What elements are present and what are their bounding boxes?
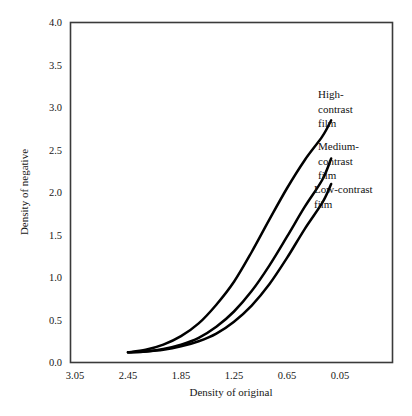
y-tick-label: 0.5 — [49, 315, 62, 326]
y-tick-label: 0.0 — [49, 357, 62, 368]
y-tick-label: 4.0 — [49, 17, 62, 28]
x-tick-label: 2.45 — [119, 370, 137, 381]
y-tick-label: 2.0 — [49, 187, 62, 198]
y-tick-label: 1.0 — [49, 272, 62, 283]
chart-canvas: 0.00.51.01.52.02.53.03.54.0 3.052.451.85… — [0, 0, 412, 416]
y-axis-tick-labels: 0.00.51.01.52.02.53.03.54.0 — [49, 17, 62, 368]
y-tick-label: 1.5 — [49, 230, 62, 241]
series-label-low-contrast-film: film — [314, 198, 333, 210]
y-tick-label: 3.5 — [49, 60, 62, 71]
x-tick-label: 0.65 — [278, 370, 296, 381]
x-tick-label: 1.25 — [225, 370, 243, 381]
x-axis-title: Density of original — [189, 386, 272, 398]
series-label-high-contrast-film: High- — [318, 88, 344, 100]
y-axis-title: Density of negative — [18, 149, 30, 235]
series-label-high-contrast-film: contrast — [318, 103, 353, 115]
x-tick-label: 0.05 — [331, 370, 349, 381]
y-tick-label: 3.0 — [49, 102, 62, 113]
y-tick-label: 2.5 — [49, 145, 62, 156]
series-label-low-contrast-film: Low-contrast — [314, 183, 373, 195]
x-tick-label: 3.05 — [66, 370, 84, 381]
chart-figure: 0.00.51.01.52.02.53.03.54.0 3.052.451.85… — [0, 0, 412, 416]
series-label-medium-contrast-film: Medium- — [318, 140, 359, 152]
series-label-medium-contrast-film: contrast — [318, 155, 353, 167]
series-label-medium-contrast-film: film — [318, 169, 337, 181]
x-tick-label: 1.85 — [172, 370, 190, 381]
series-label-high-contrast-film: film — [318, 117, 337, 129]
